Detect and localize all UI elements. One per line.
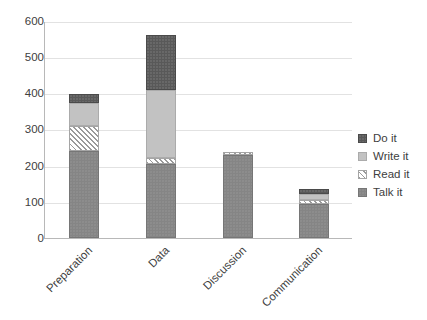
legend-label-write-it: Write it — [373, 150, 409, 162]
bar-segment-preparation-do-it — [69, 94, 99, 103]
x-axis-tick-discussion: Discussion — [169, 244, 248, 320]
x-axis-tick-preparation: Preparation — [15, 244, 94, 320]
bar-segment-data-talk-it — [146, 164, 176, 238]
stacked-bar-chart: 600 500 400 300 200 100 0 — [0, 0, 427, 320]
legend-item-write-it: Write it — [358, 147, 409, 165]
bar-segment-data-do-it — [146, 35, 176, 90]
x-axis-tick-data: Data — [92, 244, 171, 320]
y-axis-tick-500: 500 — [8, 52, 44, 64]
y-axis-tick-0: 0 — [8, 233, 44, 245]
legend-item-read-it: Read it — [358, 165, 409, 183]
gridline-600 — [45, 22, 352, 23]
legend-swatch-read-it-icon — [358, 170, 367, 179]
bar-segment-preparation-write-it — [69, 103, 99, 126]
chart-legend: Do it Write it Read it Talk it — [358, 129, 409, 201]
bar-segment-communication-do-it — [299, 189, 329, 194]
y-axis-tick-100: 100 — [8, 197, 44, 209]
bar-segment-discussion-read-it — [223, 152, 253, 155]
legend-label-talk-it: Talk it — [373, 186, 402, 198]
bar-segment-preparation-read-it — [69, 126, 99, 151]
y-axis-tick-400: 400 — [8, 88, 44, 100]
legend-swatch-talk-it-icon — [358, 188, 367, 197]
bar-segment-communication-read-it — [299, 200, 329, 204]
legend-label-read-it: Read it — [373, 168, 409, 180]
legend-item-talk-it: Talk it — [358, 183, 409, 201]
bar-segment-communication-talk-it — [299, 204, 329, 238]
bar-segment-data-write-it — [146, 90, 176, 158]
legend-swatch-write-it-icon — [358, 152, 367, 161]
bar-segment-discussion-talk-it — [223, 155, 253, 238]
bar-segment-data-read-it — [146, 158, 176, 164]
legend-swatch-do-it-icon — [358, 134, 367, 143]
gridline-500 — [45, 58, 352, 59]
y-axis-tick-600: 600 — [8, 16, 44, 28]
legend-item-do-it: Do it — [358, 129, 409, 147]
y-axis-tick-300: 300 — [8, 124, 44, 136]
legend-label-do-it: Do it — [373, 132, 397, 144]
y-axis-tick-200: 200 — [8, 161, 44, 173]
x-axis-tick-communication: Communication — [245, 244, 324, 320]
bar-segment-preparation-talk-it — [69, 151, 99, 238]
plot-area — [44, 22, 352, 239]
bar-segment-communication-write-it — [299, 194, 329, 200]
